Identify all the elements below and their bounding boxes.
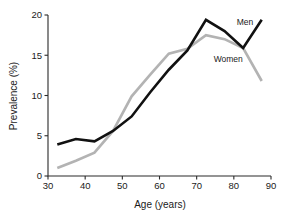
axis-lines <box>48 15 271 176</box>
y-tick-label: 20 <box>31 9 42 20</box>
x-tick-label: 70 <box>191 180 202 191</box>
x-axis-tick-labels: 30405060708090 <box>43 180 277 191</box>
axes-group <box>45 15 272 180</box>
series-label-women: Women <box>214 54 243 64</box>
y-axis-title: Prevalence (%) <box>8 62 19 130</box>
x-tick-label: 80 <box>229 180 240 191</box>
y-tick-label: 5 <box>37 130 42 141</box>
x-tick-label: 60 <box>154 180 165 191</box>
y-tick-label: 15 <box>31 50 42 61</box>
chart-canvas: 30405060708090 05101520 Age (years) Prev… <box>0 0 290 213</box>
y-tick-label: 10 <box>31 90 42 101</box>
x-tick-label: 30 <box>43 180 54 191</box>
prevalence-by-age-chart: 30405060708090 05101520 Age (years) Prev… <box>0 0 290 213</box>
x-axis-title: Age (years) <box>134 199 186 210</box>
series-line-men <box>57 20 261 145</box>
x-tick-label: 50 <box>117 180 128 191</box>
y-axis-tick-labels: 05101520 <box>31 9 42 181</box>
series-label-men: Men <box>237 17 254 27</box>
x-tick-label: 40 <box>80 180 91 191</box>
y-tick-label: 0 <box>37 170 42 181</box>
series-group <box>57 20 261 168</box>
x-tick-label: 90 <box>266 180 277 191</box>
